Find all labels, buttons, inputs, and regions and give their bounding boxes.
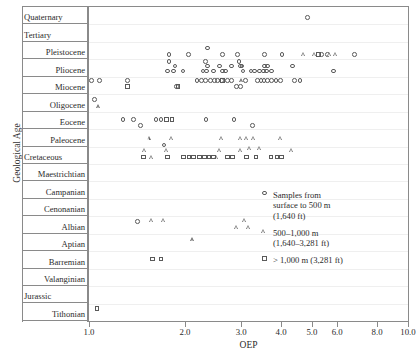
data-point-circle <box>131 117 136 122</box>
data-point-circle <box>167 52 172 57</box>
data-point-circle <box>235 52 240 57</box>
age-row-paleocene: Paleocene <box>23 129 87 146</box>
age-band-separator <box>89 112 408 113</box>
data-point-square <box>316 52 321 57</box>
data-point-triangle <box>245 136 249 140</box>
legend-label: 500–1,000 m (1,640–3,281 ft) <box>273 228 402 249</box>
data-point-triangle <box>191 237 195 241</box>
data-point-triangle <box>333 52 337 56</box>
age-row-label: Pleistocene <box>46 48 85 57</box>
chart-root: Geological Age QuaternaryTertiaryPleisto… <box>0 0 416 356</box>
age-band-separator <box>89 77 408 78</box>
age-row-label: Valanginian <box>44 275 85 284</box>
age-band-separator <box>89 42 408 43</box>
age-row-label: Quaternary <box>24 13 63 22</box>
age-row-campanian: Campanian <box>23 181 87 198</box>
data-point-square <box>191 155 196 160</box>
data-point-circle <box>186 52 191 57</box>
age-row-quaternary: Quaternary <box>23 7 87 24</box>
data-point-circle <box>252 69 257 74</box>
data-point-circle <box>262 52 267 57</box>
data-point-triangle <box>240 78 244 82</box>
data-point-triangle <box>150 155 154 159</box>
age-row-label: Tertiary <box>24 31 51 40</box>
x-axis-title: OEP <box>88 340 409 350</box>
data-point-square <box>275 155 280 160</box>
age-band-separator <box>89 94 408 95</box>
plot-markers-layer <box>89 7 408 321</box>
data-point-triangle <box>247 225 251 229</box>
x-tick-label: 3.0 <box>236 327 247 337</box>
data-point-circle <box>229 78 234 83</box>
age-band-separator <box>89 129 408 130</box>
legend-item: > 1,000 m (3,281 ft) <box>262 255 402 265</box>
age-band-separator <box>89 164 408 165</box>
x-tick-label: 5.0 <box>306 327 317 337</box>
data-point-circle <box>250 123 255 128</box>
data-point-circle <box>240 64 245 69</box>
data-point-triangle <box>301 52 305 56</box>
x-tick-label: 10.0 <box>400 327 415 337</box>
data-point-circle <box>138 123 143 128</box>
data-point-triangle <box>165 148 169 152</box>
age-row-label: Jurassic <box>24 292 51 301</box>
data-point-circle <box>89 78 94 83</box>
age-row-albian: Albian <box>23 216 87 233</box>
data-point-circle <box>352 52 357 57</box>
legend-label: > 1,000 m (3,281 ft) <box>273 255 402 265</box>
data-point-circle <box>154 117 159 122</box>
legend-item: 500–1,000 m (1,640–3,281 ft) <box>262 228 402 249</box>
data-point-triangle <box>218 148 222 152</box>
age-row-aptian: Aptian <box>23 234 87 251</box>
data-point-circle <box>217 64 222 69</box>
data-point-circle <box>278 78 283 83</box>
data-point-square <box>125 84 130 89</box>
data-point-triangle <box>248 146 252 150</box>
data-point-circle <box>243 78 248 83</box>
plot-area <box>88 6 409 322</box>
data-point-triangle <box>147 136 151 140</box>
age-row-label: Cenonanian <box>44 205 85 214</box>
data-point-triangle <box>97 104 101 108</box>
x-tick-label: 4.0 <box>276 327 287 337</box>
data-point-triangle <box>252 136 256 140</box>
age-row-label: Oligocene <box>50 101 85 110</box>
age-band-separator <box>89 59 408 60</box>
data-point-circle <box>290 64 295 69</box>
age-row-label: Barremian <box>49 258 85 267</box>
age-band-separator <box>89 304 408 305</box>
data-point-circle <box>280 52 285 57</box>
x-axis-tick-labels: 1.02.03.04.05.06.08.010.0 <box>88 327 409 339</box>
data-point-square <box>176 84 181 89</box>
data-point-circle <box>159 117 164 122</box>
data-point-triangle <box>235 225 239 229</box>
age-row-label: Eocene <box>60 118 85 127</box>
data-point-square <box>165 155 170 160</box>
data-point-triangle <box>242 218 246 222</box>
data-point-square <box>230 155 235 160</box>
data-point-circle <box>165 69 170 74</box>
data-point-circle <box>264 69 269 74</box>
data-point-square <box>220 78 225 83</box>
age-row-label: Albian <box>62 223 85 232</box>
age-row-maestrichtian: Maestrichtian <box>23 164 87 181</box>
age-row-cretaceous: Cretaceous <box>23 147 87 164</box>
data-point-square <box>269 155 274 160</box>
data-point-circle <box>97 78 102 83</box>
data-point-triangle <box>169 136 173 140</box>
data-point-triangle <box>150 218 154 222</box>
data-point-circle <box>204 117 209 122</box>
data-point-square <box>279 155 284 160</box>
data-point-triangle <box>239 148 243 152</box>
data-point-triangle <box>328 52 332 56</box>
data-point-circle <box>223 69 228 74</box>
age-row-pliocene: Pliocene <box>23 59 87 76</box>
data-point-square <box>164 117 169 122</box>
data-point-circle <box>292 78 297 83</box>
data-point-triangle <box>143 148 147 152</box>
data-point-circle <box>269 69 274 74</box>
data-point-square <box>254 155 259 160</box>
age-row-tertiary: Tertiary <box>23 24 87 41</box>
data-point-triangle <box>162 218 166 222</box>
x-tick-label: 1.0 <box>84 327 95 337</box>
